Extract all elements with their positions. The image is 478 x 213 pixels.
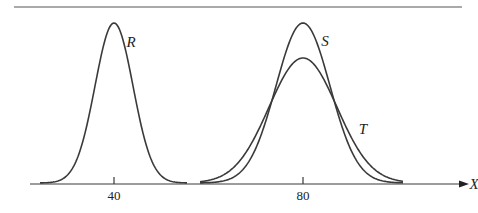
curve-r — [40, 23, 187, 183]
x-axis-arrow-icon — [459, 181, 469, 188]
x-axis-label: X — [468, 176, 478, 192]
curve-label-s: S — [321, 33, 329, 49]
tick-label-40: 40 — [108, 188, 121, 203]
distribution-chart: 40 80 X R S T — [0, 0, 478, 213]
tick-label-80: 80 — [297, 188, 310, 203]
curve-label-r: R — [125, 34, 135, 50]
curve-s — [200, 23, 403, 183]
curve-label-t: T — [359, 121, 369, 137]
curve-t — [200, 58, 403, 182]
